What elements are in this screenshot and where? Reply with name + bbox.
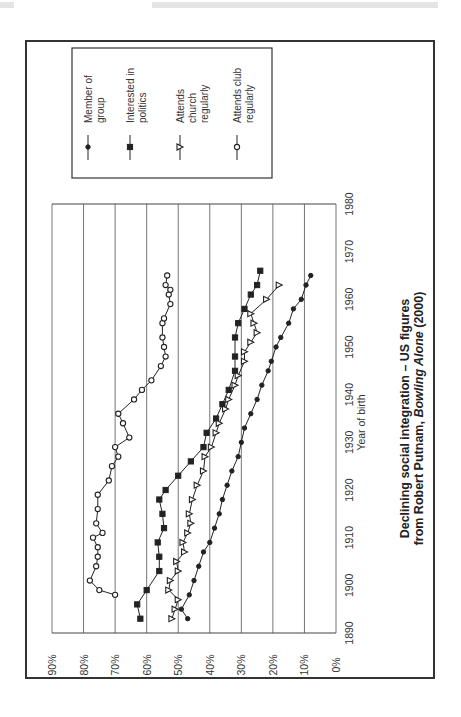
marker-open-circle: [168, 302, 173, 307]
y-tick-label: 70%: [109, 654, 121, 675]
marker-open-circle: [95, 554, 100, 559]
marker-filled-square: [188, 459, 193, 464]
series-attends-club-regularly: [87, 273, 173, 598]
marker-open-triangle: [189, 497, 195, 503]
marker-open-triangle: [202, 454, 208, 460]
marker-filled-circle: [208, 540, 212, 544]
marker-filled-square: [157, 497, 162, 502]
y-tick-label: 10%: [298, 654, 310, 675]
caption-line-1: Declining social integration – US figure…: [398, 299, 412, 539]
marker-filled-circle: [239, 440, 243, 444]
series-attends-church-regularly: [166, 282, 282, 622]
marker-filled-square: [226, 387, 231, 392]
marker-open-triangle: [194, 482, 200, 488]
marker-open-circle: [113, 445, 118, 450]
marker-filled-square: [144, 588, 149, 593]
marker-filled-circle: [179, 607, 183, 611]
marker-filled-circle: [279, 335, 283, 339]
legend-item: Attendschurchregularly: [175, 85, 210, 160]
marker-open-triangle: [254, 330, 260, 336]
marker-open-triangle: [175, 597, 181, 603]
marker-filled-circle: [225, 483, 229, 487]
marker-open-circle: [94, 521, 99, 526]
marker-filled-square: [163, 487, 168, 492]
marker-open-circle: [163, 354, 168, 359]
marker-filled-square: [258, 268, 263, 273]
y-tick-label: 90%: [46, 654, 58, 675]
marker-filled-circle: [274, 345, 278, 349]
x-tick-label: 1980: [343, 192, 355, 216]
marker-filled-square: [255, 282, 260, 287]
marker-filled-circle: [212, 526, 216, 530]
marker-filled-square: [157, 554, 162, 559]
marker-filled-square: [157, 568, 162, 573]
marker-open-circle: [97, 588, 102, 593]
legend-label: Interested in: [125, 68, 136, 123]
y-tick-label: 50%: [172, 654, 184, 675]
legend-label: Attends: [175, 89, 186, 123]
marker-open-circle: [116, 454, 121, 459]
series-line: [169, 285, 279, 619]
marker-filled-circle: [309, 273, 313, 277]
marker-open-circle: [168, 287, 173, 292]
marker-open-circle: [127, 435, 132, 440]
legend-label: regularly: [199, 85, 210, 123]
marker-filled-circle: [197, 564, 201, 568]
y-tick-label: 40%: [204, 654, 216, 675]
x-tick-label: 1970: [343, 240, 355, 264]
x-tick-label: 1940: [343, 383, 355, 407]
legend-label: church: [187, 93, 198, 123]
y-tick-label: 60%: [141, 654, 153, 675]
marker-open-triangle: [175, 568, 181, 574]
chart-series: [87, 268, 313, 622]
marker-filled-circle: [230, 469, 234, 473]
marker-open-triangle: [200, 468, 206, 474]
legend-label: politics: [137, 92, 148, 123]
x-tick-label: 1950: [343, 335, 355, 359]
marker-filled-circle: [299, 297, 303, 301]
y-tick-label: 30%: [235, 654, 247, 675]
legend-item: Member ofgroup: [83, 75, 106, 160]
marker-open-triangle: [235, 373, 241, 379]
marker-filled-square: [201, 445, 206, 450]
marker-open-circle: [87, 578, 92, 583]
marker-filled-square: [232, 335, 237, 340]
legend-label: Attends club: [232, 68, 243, 123]
marker-filled-square: [127, 144, 132, 149]
marker-open-triangle: [182, 549, 188, 555]
marker-open-circle: [90, 535, 95, 540]
caption-line-2: from Robert Putnam, Bowling Alone (2000): [412, 292, 426, 546]
legend-label: Member of: [83, 75, 94, 123]
y-tick-label: 20%: [267, 654, 279, 675]
legend-item: Interested inpolitics: [125, 68, 148, 160]
marker-open-circle: [94, 564, 99, 569]
legend-label: group: [95, 97, 106, 123]
marker-open-circle: [165, 273, 170, 278]
legend-label: regularly: [244, 85, 255, 123]
marker-open-triangle: [172, 606, 178, 612]
marker-filled-square: [248, 292, 253, 297]
marker-filled-square: [242, 306, 247, 311]
marker-filled-square: [161, 526, 166, 531]
marker-open-triangle: [208, 444, 214, 450]
marker-open-triangle: [180, 539, 186, 545]
marker-filled-circle: [201, 550, 205, 554]
marker-open-triangle: [241, 349, 247, 355]
marker-open-circle: [131, 397, 136, 402]
marker-filled-circle: [192, 578, 196, 582]
marker-filled-circle: [286, 321, 290, 325]
marker-filled-circle: [269, 359, 273, 363]
marker-filled-circle: [185, 617, 189, 621]
marker-open-circle: [149, 378, 154, 383]
marker-open-circle: [95, 492, 100, 497]
y-tick-label: 0%: [330, 657, 342, 672]
legend-item: Attends clubregularly: [232, 68, 255, 160]
marker-open-triangle: [177, 144, 183, 150]
y-tick-label: 80%: [78, 654, 90, 675]
x-axis-title: Year of birth: [355, 394, 367, 450]
marker-open-triangle: [232, 382, 238, 388]
marker-filled-circle: [217, 512, 221, 516]
marker-filled-circle: [249, 412, 253, 416]
marker-filled-square: [155, 540, 160, 545]
marker-open-triangle: [188, 520, 194, 526]
